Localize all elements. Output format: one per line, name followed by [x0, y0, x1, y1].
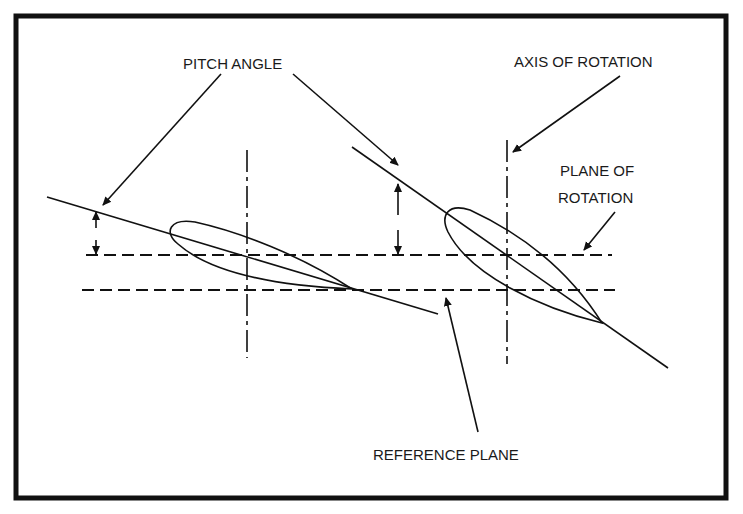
pitch-angle-diagram: PITCH ANGLE AXIS OF ROTATION PLANE OF RO…	[0, 0, 743, 514]
figure-frame	[16, 16, 726, 498]
axis-of-rotation-label: AXIS OF ROTATION	[514, 53, 653, 70]
plane-of-rotation-label-line1: PLANE OF	[560, 162, 634, 179]
pitch-angle-label: PITCH ANGLE	[183, 55, 282, 72]
reference-plane-label: REFERENCE PLANE	[373, 446, 519, 463]
plane-of-rotation-label-line2: ROTATION	[558, 189, 633, 206]
